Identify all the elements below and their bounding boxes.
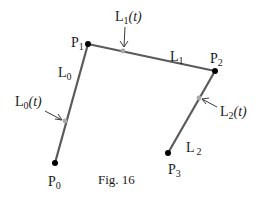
label-p0: P0 <box>48 174 61 191</box>
marker-l2-t <box>197 96 202 101</box>
arrow-l0-t-icon <box>45 111 62 120</box>
label-p2: P2 <box>210 51 223 68</box>
polyline-diagram: P0 P1 P2 P3 L0 L1 L2 L1(t) L0(t) L2(t) F… <box>0 0 264 205</box>
marker-l0-t <box>63 119 68 124</box>
label-p1: P1 <box>71 35 84 52</box>
arrow-l1-t-icon <box>120 27 128 47</box>
point-p0 <box>52 160 58 166</box>
label-p3: P3 <box>168 162 181 179</box>
arrow-l2-t-icon <box>202 98 217 107</box>
segment-l1 <box>88 44 215 71</box>
label-l2-t: L2(t) <box>220 104 247 121</box>
marker-l1-t <box>121 49 126 54</box>
figure-caption: Fig. 16 <box>98 172 135 187</box>
point-p2 <box>212 68 218 74</box>
label-l2: L2 <box>186 140 202 157</box>
label-l0-t: L0(t) <box>15 94 42 111</box>
segment-l0 <box>55 44 88 163</box>
label-l1-t: L1(t) <box>115 9 142 26</box>
point-p1 <box>85 41 91 47</box>
point-p3 <box>165 150 171 156</box>
label-l1: L1 <box>170 49 184 66</box>
label-l0: L0 <box>58 65 72 82</box>
